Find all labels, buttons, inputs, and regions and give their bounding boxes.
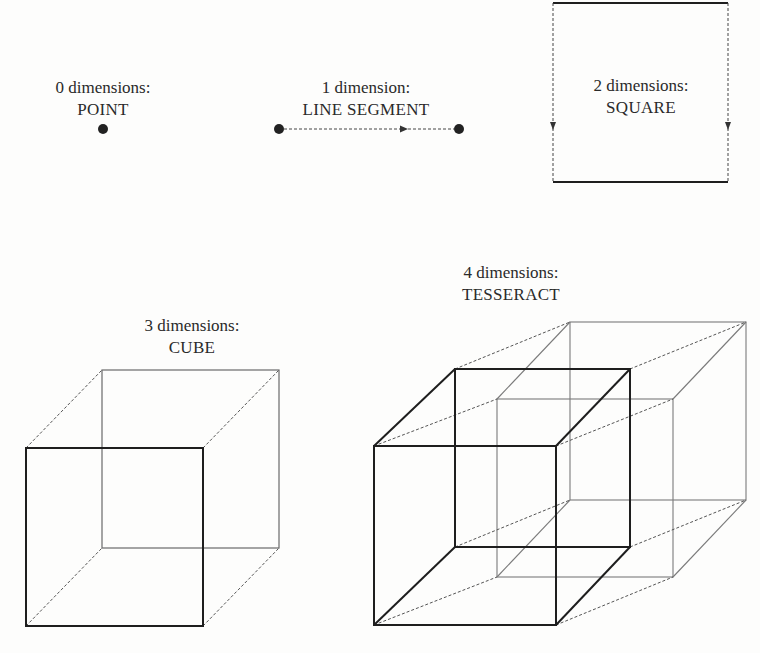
- cube-figure: [26, 370, 279, 626]
- cube-dimensions-text: 3 dimensions:: [145, 315, 240, 337]
- line-segment-name-text: LINE SEGMENT: [303, 99, 430, 121]
- square-name-text: SQUARE: [594, 97, 689, 119]
- tesseract-name-text: TESSERACT: [462, 284, 560, 306]
- cube-name-text: CUBE: [145, 337, 240, 359]
- cube-label: 3 dimensions: CUBE: [145, 315, 240, 359]
- point-figure: [98, 124, 108, 134]
- square-dimensions-text: 2 dimensions:: [594, 75, 689, 97]
- tesseract-label: 4 dimensions: TESSERACT: [462, 262, 560, 306]
- square-label: 2 dimensions: SQUARE: [594, 75, 689, 119]
- tesseract-figure: [374, 322, 746, 625]
- tesseract-dimensions-text: 4 dimensions:: [462, 262, 560, 284]
- line-segment-label: 1 dimension: LINE SEGMENT: [303, 77, 430, 121]
- point-dimensions-text: 0 dimensions:: [56, 77, 151, 99]
- point-name-text: POINT: [56, 99, 151, 121]
- line-segment-dimensions-text: 1 dimension:: [303, 77, 430, 99]
- line-segment-figure: [274, 124, 464, 134]
- point-label: 0 dimensions: POINT: [56, 77, 151, 121]
